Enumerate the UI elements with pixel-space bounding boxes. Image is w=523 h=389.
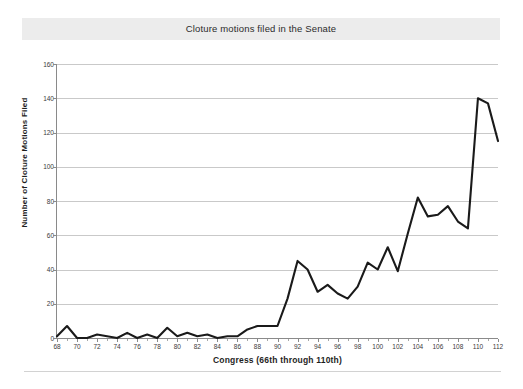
- x-tick-mark: [137, 339, 138, 342]
- x-tick-mark: [368, 339, 369, 341]
- y-tick-mark: [53, 235, 56, 236]
- x-tick-label: 96: [329, 343, 347, 351]
- x-tick-label: 86: [228, 343, 246, 351]
- x-tick-mark: [418, 339, 419, 342]
- x-tick-label: 90: [269, 343, 287, 351]
- x-axis-label: Congress (66th through 110th): [57, 355, 498, 365]
- x-tick-mark: [57, 339, 58, 342]
- x-tick-mark: [498, 339, 499, 342]
- x-tick-mark: [328, 339, 329, 341]
- gridline: [57, 304, 498, 305]
- x-tick-mark: [107, 339, 108, 341]
- x-tick-mark: [157, 339, 158, 342]
- x-tick-mark: [247, 339, 248, 341]
- x-tick-label: 112: [489, 343, 507, 351]
- x-tick-mark: [237, 339, 238, 342]
- chart-figure: Cloture motions filed in the Senate 0204…: [0, 0, 523, 389]
- gridline: [57, 201, 498, 202]
- x-tick-mark: [318, 339, 319, 342]
- y-tick-mark: [53, 167, 56, 168]
- y-tick-label: 140: [32, 95, 54, 102]
- x-tick-mark: [488, 339, 489, 341]
- x-tick-mark: [298, 339, 299, 342]
- x-tick-label: 84: [208, 343, 226, 351]
- y-axis-label: Number of Cloture Motions Filed: [20, 73, 29, 253]
- x-tick-label: 72: [88, 343, 106, 351]
- x-tick-mark: [147, 339, 148, 341]
- y-tick-mark: [53, 270, 56, 271]
- x-tick-label: 80: [168, 343, 186, 351]
- x-tick-label: 104: [409, 343, 427, 351]
- x-tick-mark: [288, 339, 289, 341]
- y-axis-line: [56, 64, 57, 339]
- y-tick-label: 20: [32, 300, 54, 307]
- x-tick-mark: [408, 339, 409, 341]
- y-tick-label: 160: [32, 61, 54, 68]
- gridline: [57, 235, 498, 236]
- x-tick-mark: [257, 339, 258, 342]
- x-tick-mark: [267, 339, 268, 341]
- x-tick-label: 82: [188, 343, 206, 351]
- y-tick-mark: [53, 64, 56, 65]
- x-tick-label: 76: [128, 343, 146, 351]
- y-tick-mark: [53, 98, 56, 99]
- y-tick-labels: 020406080100120140160: [26, 0, 54, 389]
- y-tick-label: 80: [32, 198, 54, 205]
- x-tick-mark: [438, 339, 439, 342]
- x-tick-mark: [468, 339, 469, 341]
- y-tick-mark: [53, 133, 56, 134]
- gridline: [57, 270, 498, 271]
- x-tick-label: 102: [389, 343, 407, 351]
- x-tick-label: 92: [289, 343, 307, 351]
- gridline: [57, 98, 498, 99]
- x-tick-mark: [428, 339, 429, 341]
- x-tick-mark: [197, 339, 198, 342]
- x-tick-mark: [77, 339, 78, 342]
- plot-area: [57, 64, 498, 338]
- gridline: [57, 64, 498, 65]
- x-tick-mark: [97, 339, 98, 342]
- x-tick-mark: [117, 339, 118, 342]
- y-tick-mark: [53, 304, 56, 305]
- y-tick-label: 100: [32, 163, 54, 170]
- x-tick-label: 78: [148, 343, 166, 351]
- x-tick-mark: [448, 339, 449, 341]
- x-tick-mark: [67, 339, 68, 341]
- x-tick-mark: [308, 339, 309, 341]
- x-tick-mark: [388, 339, 389, 341]
- y-tick-label: 40: [32, 266, 54, 273]
- x-tick-mark: [398, 339, 399, 342]
- x-tick-label: 108: [449, 343, 467, 351]
- y-tick-label: 120: [32, 129, 54, 136]
- x-tick-mark: [458, 339, 459, 342]
- gridline: [57, 133, 498, 134]
- x-tick-mark: [187, 339, 188, 341]
- x-tick-mark: [207, 339, 208, 341]
- y-tick-label: 60: [32, 232, 54, 239]
- x-tick-mark: [167, 339, 168, 341]
- x-tick-mark: [338, 339, 339, 342]
- x-tick-mark: [87, 339, 88, 341]
- y-tick-mark: [53, 338, 56, 339]
- x-tick-label: 68: [48, 343, 66, 351]
- x-tick-mark: [127, 339, 128, 341]
- x-tick-mark: [278, 339, 279, 342]
- plot-wrapper: 020406080100120140160 687072747678808284…: [0, 0, 523, 389]
- x-tick-label: 98: [349, 343, 367, 351]
- x-tick-label: 74: [108, 343, 126, 351]
- x-tick-mark: [217, 339, 218, 342]
- x-tick-label: 70: [68, 343, 86, 351]
- x-tick-label: 100: [369, 343, 387, 351]
- x-tick-mark: [227, 339, 228, 341]
- gridline: [57, 167, 498, 168]
- x-tick-mark: [478, 339, 479, 342]
- x-tick-mark: [358, 339, 359, 342]
- x-tick-label: 94: [309, 343, 327, 351]
- y-tick-mark: [53, 201, 56, 202]
- bottom-divider: [24, 371, 501, 372]
- x-tick-mark: [348, 339, 349, 341]
- x-tick-mark: [378, 339, 379, 342]
- x-tick-label: 106: [429, 343, 447, 351]
- x-tick-label: 88: [248, 343, 266, 351]
- y-tick-label: 0: [32, 335, 54, 342]
